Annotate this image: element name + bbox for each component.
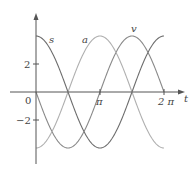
series-label-s: s	[49, 34, 54, 45]
x-tick-label-2pi: 2 π	[157, 96, 175, 107]
y-tick-label-neg2: −2	[16, 115, 31, 126]
y-axis-arrow-icon	[34, 13, 39, 20]
origin-label: 0	[25, 95, 31, 106]
x-tick-label-pi: π	[95, 96, 103, 107]
series-label-a: a	[82, 34, 88, 45]
y-tick-label-2: 2	[24, 59, 30, 70]
series-label-v: v	[131, 23, 137, 34]
t-axis-label: t	[184, 93, 189, 104]
chart: 2 −2 0 π 2 π t s a v	[0, 0, 195, 175]
